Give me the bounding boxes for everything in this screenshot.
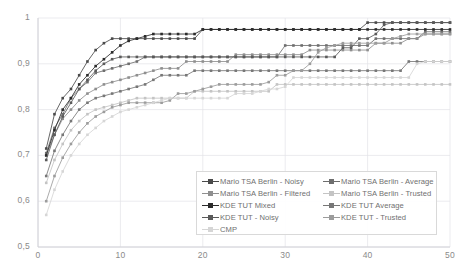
- legend-column-right: Mario TSA Berlin - AverageMario TSA Berl…: [323, 176, 431, 235]
- line-chart-plot: [0, 0, 458, 277]
- series-2: [45, 33, 451, 157]
- legend-marker-icon: [323, 177, 340, 186]
- legend-columns: Mario TSA Berlin - NoisyMario TSA Berlin…: [202, 176, 431, 235]
- legend-column-left: Mario TSA Berlin - NoisyMario TSA Berlin…: [202, 176, 321, 235]
- legend-marker-icon: [202, 201, 219, 210]
- y-tick-label: 0,5: [6, 242, 30, 251]
- y-tick-label: 0,6: [6, 196, 30, 205]
- legend-item-label: KDE TUT - Trusted: [341, 213, 406, 222]
- legend-item[interactable]: Mario TSA Berlin - Average: [323, 176, 431, 187]
- legend-item[interactable]: Mario TSA Berlin - Trusted: [323, 188, 431, 199]
- series-3: [45, 83, 451, 184]
- legend-item[interactable]: KDE TUT - Trusted: [323, 212, 431, 223]
- legend-item[interactable]: Mario TSA Berlin - Noisy: [202, 176, 321, 187]
- legend-marker-icon: [202, 225, 219, 234]
- series-0: [45, 21, 451, 150]
- legend-marker-icon: [202, 177, 219, 186]
- legend-marker-icon: [202, 189, 219, 198]
- legend-item[interactable]: KDE TUT Average: [323, 200, 431, 211]
- legend-item-label: Mario TSA Berlin - Average: [341, 177, 434, 186]
- legend-item-label: Mario TSA Berlin - Noisy: [220, 177, 304, 186]
- series-4: [45, 28, 451, 157]
- legend-item-label: KDE TUT Mixed: [220, 201, 275, 210]
- legend-item[interactable]: CMP: [202, 224, 321, 235]
- x-tick-label: 10: [107, 251, 133, 260]
- legend-item[interactable]: KDE TUT - Noisy: [202, 212, 321, 223]
- y-tick-label: 1: [6, 13, 30, 22]
- series-1: [45, 30, 451, 154]
- y-tick-label: 0,9: [6, 59, 30, 68]
- y-tick-label: 0,7: [6, 150, 30, 159]
- chart-legend: Mario TSA Berlin - NoisyMario TSA Berlin…: [196, 171, 437, 235]
- x-tick-label: 30: [272, 251, 298, 260]
- chart-container: 0,50,60,70,80,91 01020304050 Mario TSA B…: [0, 0, 458, 277]
- y-tick-label: 0,8: [6, 105, 30, 114]
- legend-item-label: KDE TUT Average: [341, 201, 404, 210]
- legend-item-label: CMP: [220, 225, 237, 234]
- legend-item-label: KDE TUT - Noisy: [220, 213, 279, 222]
- legend-marker-icon: [323, 213, 340, 222]
- legend-item[interactable]: KDE TUT Mixed: [202, 200, 321, 211]
- legend-item-label: Mario TSA Berlin - Filtered: [220, 189, 310, 198]
- x-tick-label: 50: [437, 251, 458, 260]
- legend-item[interactable]: Mario TSA Berlin - Filtered: [202, 188, 321, 199]
- legend-marker-icon: [323, 201, 340, 210]
- x-tick-label: 40: [355, 251, 381, 260]
- legend-marker-icon: [202, 213, 219, 222]
- x-tick-label: 0: [25, 251, 51, 260]
- legend-marker-icon: [323, 189, 340, 198]
- legend-item-label: Mario TSA Berlin - Trusted: [341, 189, 431, 198]
- x-tick-label: 20: [190, 251, 216, 260]
